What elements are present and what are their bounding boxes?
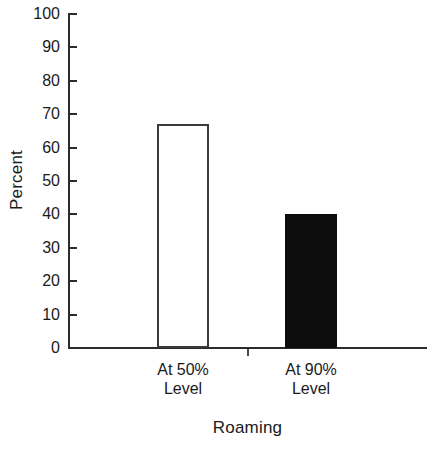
x-axis-title: Roaming — [68, 418, 427, 438]
y-tick-label: 50 — [8, 173, 60, 189]
x-tick-mark — [247, 349, 249, 356]
y-tick-label: 0 — [8, 340, 60, 356]
y-tick-label: 70 — [8, 106, 60, 122]
bar-chart: Percent 0102030405060708090100 At 50% Le… — [0, 0, 439, 451]
bar-1 — [157, 124, 209, 348]
bar-2 — [285, 214, 337, 348]
y-tick-label: 60 — [8, 140, 60, 156]
y-tick-label: 30 — [8, 240, 60, 256]
y-tick-label: 80 — [8, 73, 60, 89]
y-tick-label: 90 — [8, 39, 60, 55]
x-category-label-1: At 50% Level — [123, 360, 243, 398]
x-category-label-2: At 90% Level — [251, 360, 371, 398]
y-tick-label: 20 — [8, 273, 60, 289]
y-tick-label: 40 — [8, 206, 60, 222]
y-tick-label: 10 — [8, 307, 60, 323]
plot-area — [68, 14, 427, 348]
y-tick-label: 100 — [8, 6, 60, 22]
